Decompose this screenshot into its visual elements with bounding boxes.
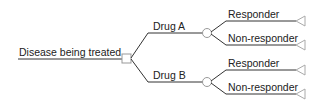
outcome-a-responder-label: Responder	[228, 8, 279, 20]
branch-b-label: Drug B	[153, 69, 186, 81]
chance-node-a-icon	[203, 29, 212, 38]
terminal-node-icon	[296, 65, 305, 75]
outcome-b-nonresponder-label: Non-responder	[228, 81, 298, 93]
decision-node-icon	[122, 54, 131, 63]
root-label: Disease being treated	[19, 46, 121, 58]
outcome-b-responder-label: Responder	[228, 57, 279, 69]
outcome-a-nonresponder-label: Non-responder	[228, 32, 298, 44]
branch-a-label: Drug A	[153, 20, 185, 32]
terminal-node-icon	[296, 16, 305, 26]
chance-node-b-icon	[203, 78, 212, 87]
